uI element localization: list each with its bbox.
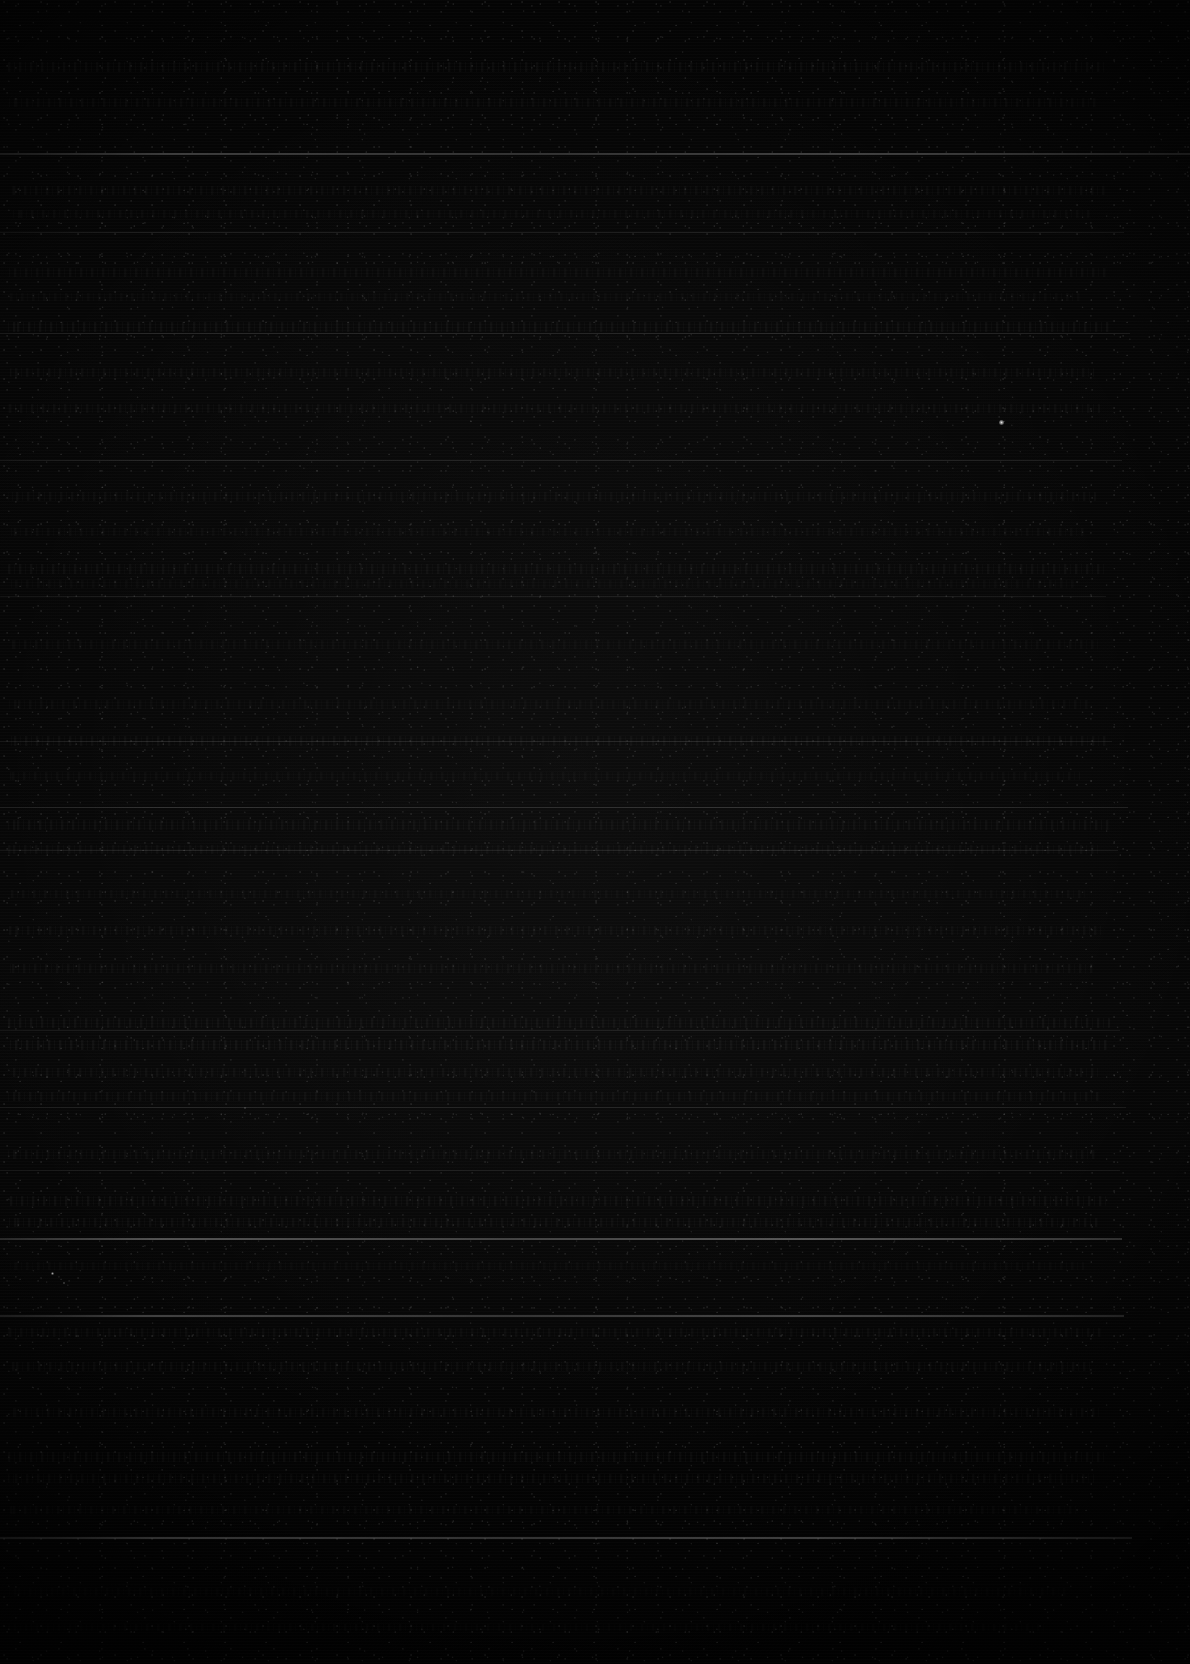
paper-background <box>0 0 1190 1664</box>
document-page: Near-black underexposed scanned document… <box>0 0 1190 1664</box>
